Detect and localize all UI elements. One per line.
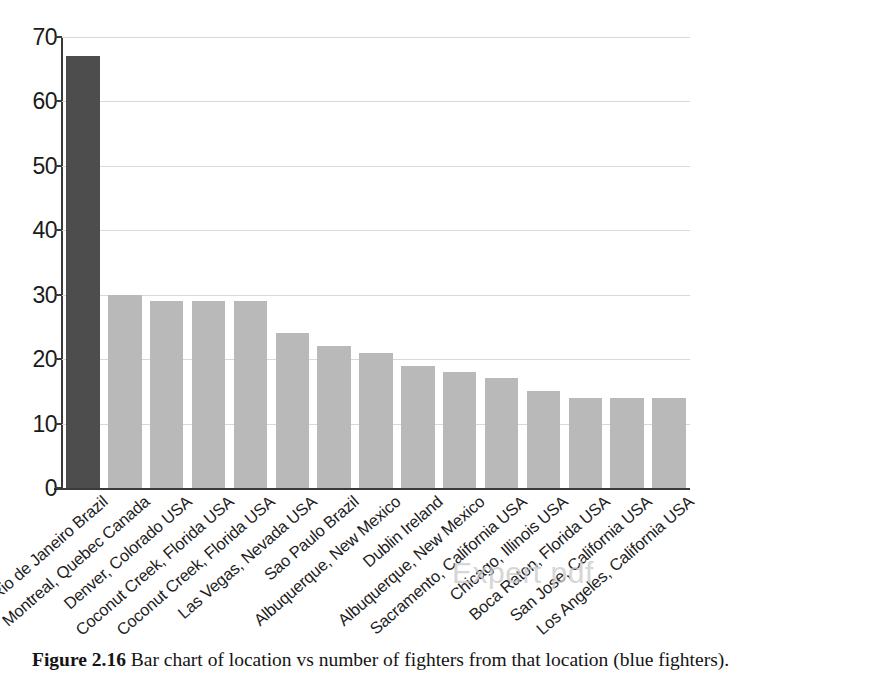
plot-area — [62, 37, 690, 488]
figure-container: 010203040506070 Rio de Janeiro BrazilMon… — [0, 0, 886, 685]
y-axis-tick-mark — [55, 100, 62, 102]
y-axis-tick-label: 20 — [3, 346, 57, 373]
bar[interactable] — [401, 366, 434, 488]
y-axis-tick-mark — [55, 229, 62, 231]
figure-caption: Figure 2.16 Bar chart of location vs num… — [32, 648, 862, 672]
y-axis-tick-label: 60 — [3, 88, 57, 115]
bar[interactable] — [610, 398, 643, 488]
y-axis-tick-mark — [55, 294, 62, 296]
bar[interactable] — [359, 353, 392, 488]
gridline — [54, 488, 690, 490]
bar[interactable] — [276, 333, 309, 488]
y-axis-tick-mark — [55, 487, 62, 489]
y-axis-tick-mark — [55, 423, 62, 425]
bar-series — [62, 37, 690, 488]
bar[interactable] — [527, 391, 560, 488]
y-axis-tick-mark — [55, 36, 62, 38]
bar[interactable] — [443, 372, 476, 488]
y-axis-tick-mark — [55, 358, 62, 360]
bar[interactable] — [485, 378, 518, 488]
y-axis-ticks: 010203040506070 — [0, 37, 57, 488]
y-axis-tick-label: 30 — [3, 281, 57, 308]
y-axis-tick-label: 70 — [3, 24, 57, 51]
figure-label: Figure 2.16 — [32, 649, 126, 670]
bar[interactable] — [569, 398, 602, 488]
y-axis-tick-mark — [55, 165, 62, 167]
bar[interactable] — [652, 398, 685, 488]
bar[interactable] — [108, 295, 141, 488]
bar[interactable] — [317, 346, 350, 488]
bar-chart: 010203040506070 Rio de Janeiro BrazilMon… — [0, 0, 886, 500]
bar[interactable] — [66, 56, 99, 488]
figure-caption-text: Bar chart of location vs number of fight… — [131, 649, 729, 670]
y-axis-tick-label: 50 — [3, 152, 57, 179]
x-axis-labels: Rio de Janeiro BrazilMontreal, Quebec Ca… — [0, 492, 886, 632]
bar[interactable] — [150, 301, 183, 488]
y-axis-tick-label: 10 — [3, 410, 57, 437]
y-axis-tick-label: 40 — [3, 217, 57, 244]
bar[interactable] — [234, 301, 267, 488]
bar[interactable] — [192, 301, 225, 488]
